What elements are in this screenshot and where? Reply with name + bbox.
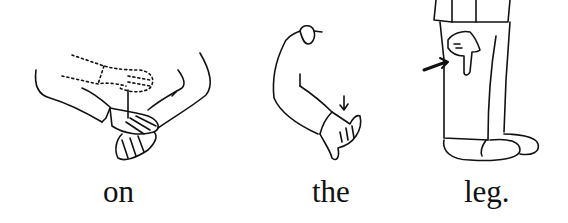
- panel-on: on: [0, 0, 220, 223]
- word-leg: leg.: [464, 176, 510, 207]
- word-the: the: [312, 176, 350, 207]
- two-hands-palm-on-back-of-hand-icon: [0, 0, 220, 170]
- panel-leg: leg.: [400, 0, 568, 223]
- panel-the: the: [220, 0, 400, 223]
- finger-pointing-to-leg-icon: [400, 0, 568, 170]
- arm-hand-twist-arrow-icon: [220, 0, 400, 170]
- word-on: on: [103, 176, 134, 207]
